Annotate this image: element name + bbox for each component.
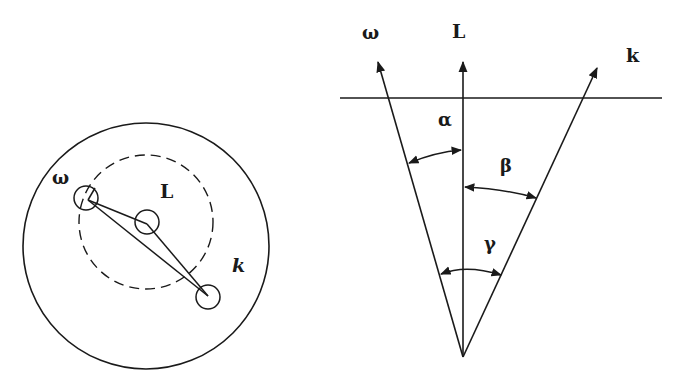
k-vector bbox=[463, 68, 597, 357]
k-label: k bbox=[232, 254, 245, 276]
omega-k-line bbox=[88, 200, 208, 296]
L-label: L bbox=[452, 20, 465, 42]
L-k-line bbox=[147, 224, 208, 296]
left-diagram: ω L k bbox=[23, 123, 269, 369]
gamma-label: γ bbox=[484, 233, 496, 254]
figure: ω L k ω L k α β γ bbox=[0, 0, 685, 390]
beta-label: β bbox=[500, 155, 512, 176]
dashed-circle bbox=[79, 155, 213, 289]
k-label: k bbox=[626, 44, 640, 66]
alpha-label: α bbox=[438, 109, 452, 130]
omega-L-line bbox=[88, 200, 147, 224]
beta-arc bbox=[465, 187, 536, 198]
gamma-arc bbox=[441, 269, 501, 275]
right-diagram: ω L k α β γ bbox=[340, 20, 662, 357]
omega-radius-tick bbox=[88, 188, 95, 200]
omega-label: ω bbox=[362, 22, 379, 43]
omega-label: ω bbox=[52, 167, 69, 188]
omega-vector bbox=[378, 62, 463, 357]
L-label: L bbox=[160, 180, 173, 202]
L-node bbox=[135, 210, 159, 234]
alpha-arc bbox=[409, 150, 461, 163]
